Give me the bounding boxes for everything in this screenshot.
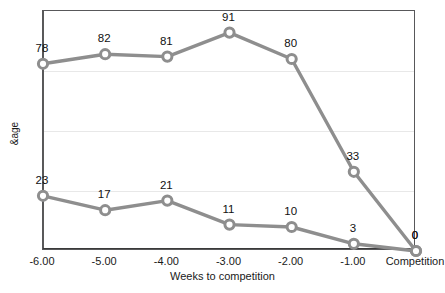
data-label: 17 — [98, 188, 111, 200]
x-tick-4: -2.00 — [278, 255, 303, 267]
x-tick-1: -5.00 — [92, 255, 117, 267]
data-label-layer: 7882819180330231721111030-6.00-5.00-4.00… — [0, 0, 445, 293]
data-label: 3 — [350, 222, 356, 234]
data-label: 23 — [36, 174, 49, 186]
data-label: 82 — [98, 32, 111, 44]
x-tick-0: -6.00 — [29, 255, 54, 267]
x-tick-2: -4.00 — [154, 255, 179, 267]
data-label: 78 — [36, 42, 49, 54]
x-tick-3: -3.00 — [216, 255, 241, 267]
chart-figure: &age 0255075100 788281918033023172111103… — [0, 0, 445, 293]
x-tick-6: Competition — [386, 255, 445, 267]
data-label: 21 — [160, 179, 173, 191]
data-label: 91 — [222, 11, 235, 23]
x-tick-5: -1.00 — [340, 255, 365, 267]
data-label: 33 — [346, 150, 359, 162]
data-label: 81 — [160, 35, 173, 47]
data-label: 10 — [284, 205, 297, 217]
data-label: 0 — [412, 229, 418, 241]
data-label: 80 — [284, 37, 297, 49]
data-label: 11 — [223, 203, 235, 215]
x-axis-title: Weeks to competition — [0, 270, 445, 282]
